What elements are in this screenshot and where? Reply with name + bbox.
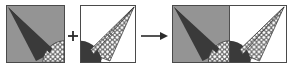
composite-rectangle-canvas [173,6,286,62]
square-b [80,5,136,63]
geometry-figure [0,0,291,74]
arrow-right-icon [141,30,169,42]
plus-icon [68,31,78,41]
square-b-canvas [81,6,135,62]
arrow-right-operator [141,30,169,42]
plus-operator [68,31,78,41]
square-a [6,5,65,63]
square-a-canvas [7,6,64,62]
composite-rectangle [172,5,287,63]
